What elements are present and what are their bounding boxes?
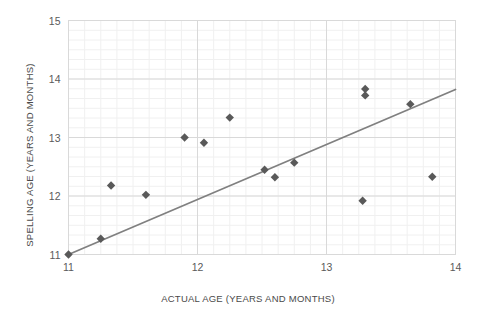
data-point (226, 113, 234, 121)
x-tick-label: 12 (192, 261, 204, 273)
data-point (200, 139, 208, 147)
y-tick-label: 11 (39, 249, 61, 261)
y-axis-title: SPELLING AGE (YEARS AND MONTHS) (22, 38, 38, 272)
y-tick-label: 15 (39, 15, 61, 27)
data-point (361, 85, 369, 93)
y-tick-label: 13 (39, 132, 61, 144)
y-tick-label: 12 (39, 190, 61, 202)
scatter-chart: 11121314 1112131415 ACTUAL AGE (YEARS AN… (0, 0, 496, 310)
x-tick-label: 11 (63, 261, 74, 273)
data-point (64, 250, 72, 258)
y-tick-label: 14 (39, 73, 61, 85)
data-point (428, 173, 436, 181)
plot-canvas (0, 0, 496, 310)
x-axis-title: ACTUAL AGE (YEARS AND MONTHS) (0, 293, 496, 304)
data-point (358, 196, 366, 204)
data-point (107, 181, 115, 189)
x-tick-label: 14 (450, 261, 462, 273)
x-tick-label: 13 (321, 261, 333, 273)
